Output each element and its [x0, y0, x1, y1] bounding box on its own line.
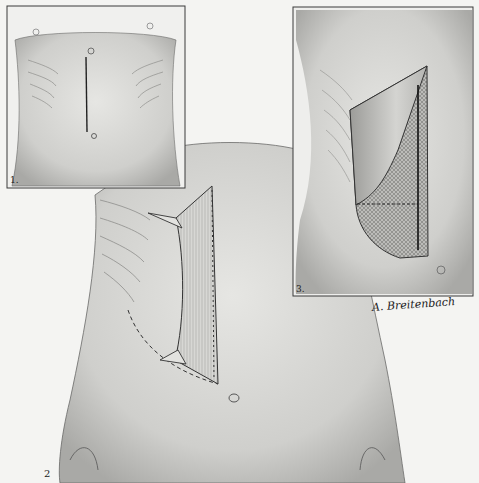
panel-1-inset — [7, 6, 185, 188]
surgical-illustration-plate: 1. 3. 2 — [0, 0, 479, 483]
panel-2-label: 2 — [44, 468, 50, 479]
panel-1-label: 1. — [10, 175, 19, 185]
panel-3-label: 3. — [296, 284, 305, 294]
panel-3-inset — [293, 7, 473, 296]
midline-incision — [86, 57, 87, 132]
